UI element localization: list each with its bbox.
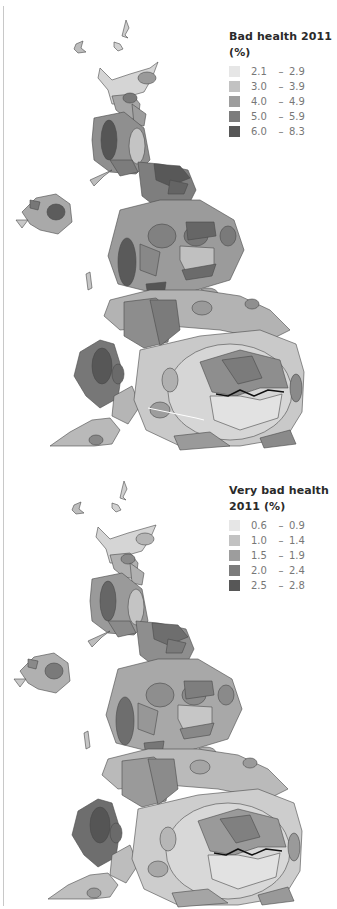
legend-title-line2: 2011 (%) [229,499,329,515]
legend-high: 8.3 [289,126,311,137]
legend-high: 3.9 [289,81,311,92]
legend-row: 6.0 – 8.3 [229,124,337,139]
bad-health-legend: Bad health 2011 (%) 2.1 – 2.9 3.0 – 3.9 … [229,29,337,139]
legend-row: 1.0 – 1.4 [229,533,329,548]
legend-low: 2.1 [251,66,273,77]
legend-sep: – [273,111,289,122]
very-bad-health-map-panel: Very bad health 2011 (%) 0.6 – 0.9 1.0 –… [0,455,337,909]
legend-sep: – [273,126,289,137]
legend-low: 4.0 [251,96,273,107]
legend-title: Very bad health [229,483,329,499]
legend-row: 2.1 – 2.9 [229,64,337,79]
legend-low: 0.6 [251,520,273,531]
bad-health-map-panel: Bad health 2011 (%) 2.1 – 2.9 3.0 – 3.9 … [0,0,337,455]
legend-swatch [229,111,240,122]
legend-low: 3.0 [251,81,273,92]
legend-swatch [229,126,240,137]
legend-swatch [229,535,240,546]
legend-high: 5.9 [289,111,311,122]
legend-sep: – [273,535,289,546]
very-bad-health-legend: Very bad health 2011 (%) 0.6 – 0.9 1.0 –… [229,483,329,593]
legend-sep: – [273,66,289,77]
legend-low: 2.0 [251,565,273,576]
legend-swatch [229,96,240,107]
legend-low: 5.0 [251,111,273,122]
legend-low: 1.0 [251,535,273,546]
legend-swatch [229,565,240,576]
legend-high: 2.9 [289,66,311,77]
legend-sep: – [273,580,289,591]
legend-sep: – [273,565,289,576]
legend-low: 1.5 [251,550,273,561]
legend-high: 4.9 [289,96,311,107]
legend-row: 3.0 – 3.9 [229,79,337,94]
legend-high: 2.4 [289,565,311,576]
legend-high: 2.8 [289,580,311,591]
legend-row: 1.5 – 1.9 [229,548,329,563]
legend-swatch [229,81,240,92]
legend-swatch [229,550,240,561]
legend-high: 0.9 [289,520,311,531]
legend-low: 6.0 [251,126,273,137]
legend-row: 2.0 – 2.4 [229,563,329,578]
legend-row: 5.0 – 5.9 [229,109,337,124]
legend-row: 4.0 – 4.9 [229,94,337,109]
legend-row: 0.6 – 0.9 [229,518,329,533]
legend-sep: – [273,550,289,561]
legend-sep: – [273,520,289,531]
legend-sep: – [273,96,289,107]
legend-high: 1.4 [289,535,311,546]
legend-row: 2.5 – 2.8 [229,578,329,593]
legend-sep: – [273,81,289,92]
legend-swatch [229,580,240,591]
legend-swatch [229,66,240,77]
legend-low: 2.5 [251,580,273,591]
legend-high: 1.9 [289,550,311,561]
legend-title: Bad health 2011 (%) [229,29,337,61]
legend-swatch [229,520,240,531]
